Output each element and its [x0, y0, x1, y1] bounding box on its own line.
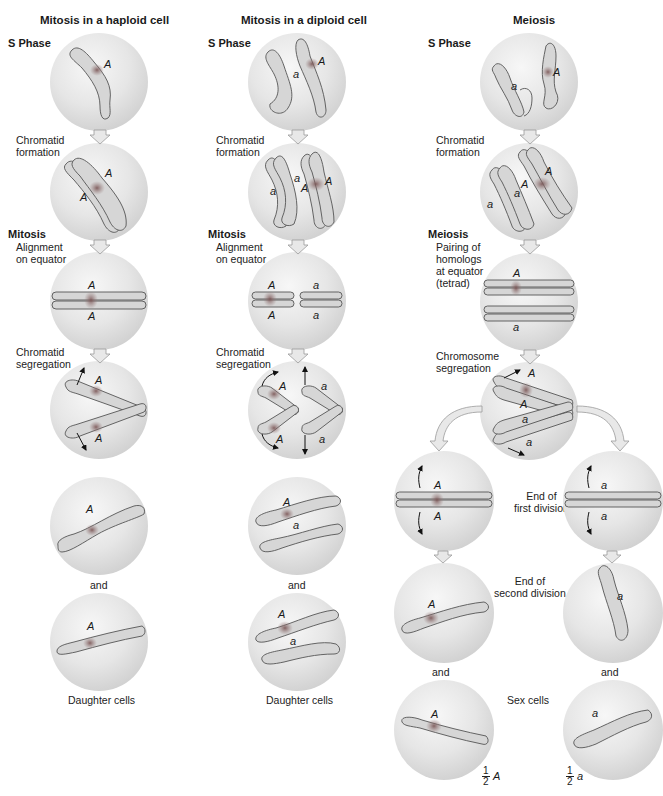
gene-label: a: [514, 187, 520, 199]
caption-and-diploid: and: [288, 579, 306, 591]
gene-label: A: [528, 367, 535, 379]
gene-label: A: [428, 598, 435, 610]
fraction-half-a: 1 2: [566, 766, 574, 787]
caption-and-meiosis-right: and: [601, 666, 619, 678]
gene-label: A: [80, 191, 87, 203]
gene-label: A: [276, 433, 283, 445]
gene-label: a: [293, 519, 299, 531]
gene-label: a: [270, 185, 276, 197]
gene-label: A: [434, 479, 441, 491]
gene-label: A: [318, 55, 325, 67]
gene-label: A: [545, 165, 552, 177]
gene-label: A: [301, 182, 308, 194]
gene-label: a: [511, 80, 517, 92]
gene-label: A: [95, 374, 102, 386]
caption-and-haploid: and: [90, 579, 108, 591]
gene-label: a: [617, 590, 623, 602]
gene-label: A: [268, 309, 275, 321]
gene-label: A: [434, 510, 441, 522]
gene-label: a: [592, 707, 598, 719]
gene-label: a: [313, 279, 319, 291]
gene-label: A: [278, 608, 285, 620]
gene-label: A: [513, 267, 520, 279]
gene-label: a: [526, 436, 532, 448]
caption-and-meiosis-left: and: [432, 666, 450, 678]
gene-label: A: [88, 279, 95, 291]
gene-label: A: [104, 58, 111, 70]
gene-label: A: [279, 380, 286, 392]
fraction-denominator: 2: [483, 776, 489, 787]
fraction-denominator: 2: [567, 776, 573, 787]
gene-label: a: [601, 510, 607, 522]
gene-label: a: [290, 635, 296, 647]
gene-label: a: [487, 198, 493, 210]
gene-label: A: [105, 167, 112, 179]
fraction-allele: a: [577, 770, 583, 782]
gene-label: a: [319, 433, 325, 445]
gene-label: A: [86, 503, 93, 515]
gene-label: A: [268, 279, 275, 291]
gene-label: A: [88, 310, 95, 322]
gene-label: a: [313, 309, 319, 321]
gene-label: A: [95, 432, 102, 444]
gene-label: a: [293, 68, 299, 80]
gene-label: A: [283, 496, 290, 508]
fraction-half-A: 1 2: [482, 766, 490, 787]
gene-label: a: [601, 479, 607, 491]
gene-label: A: [431, 708, 438, 720]
gene-label: a: [513, 321, 519, 333]
gene-label: a: [294, 172, 300, 184]
caption-daughter-cells-diploid: Daughter cells: [266, 694, 333, 706]
gene-label: A: [87, 620, 94, 632]
caption-daughter-cells-haploid: Daughter cells: [68, 694, 135, 706]
gene-label: A: [325, 175, 332, 187]
gene-label: A: [521, 178, 528, 190]
gene-label: a: [522, 413, 528, 425]
gene-label: A: [553, 66, 560, 78]
fraction-allele: A: [493, 770, 500, 782]
gene-label: a: [321, 380, 327, 392]
gene-label: A: [520, 398, 527, 410]
